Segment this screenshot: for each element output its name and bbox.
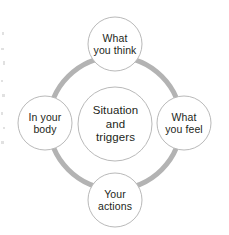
cycle-diagram: What you think What you feel Your action… [0, 0, 229, 235]
node-circle-in-your-body[interactable] [18, 96, 72, 150]
node-circle-what-you-think[interactable] [88, 17, 142, 71]
node-circle-situation-and-triggers[interactable] [78, 87, 152, 161]
node-circle-your-actions[interactable] [88, 173, 142, 227]
diagram-canvas [0, 0, 229, 235]
node-circle-what-you-feel[interactable] [157, 96, 211, 150]
